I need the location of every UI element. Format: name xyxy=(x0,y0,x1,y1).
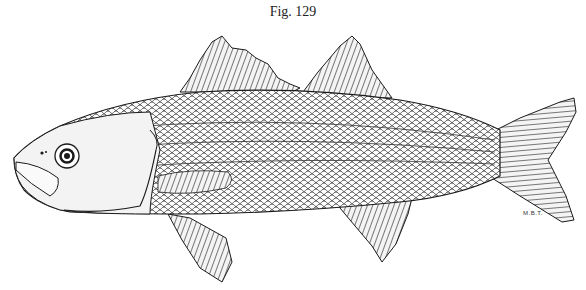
artist-signature: M.B.T. xyxy=(523,210,543,216)
pelvic-fin xyxy=(168,214,232,282)
fish-illustration xyxy=(0,0,586,290)
figure-page: Fig. 129 xyxy=(0,0,586,290)
spiny-dorsal-fin xyxy=(180,36,300,92)
fish-head xyxy=(14,112,160,214)
fish-eye xyxy=(55,144,79,168)
caudal-fin xyxy=(492,98,576,222)
soft-dorsal-fin xyxy=(300,36,392,98)
